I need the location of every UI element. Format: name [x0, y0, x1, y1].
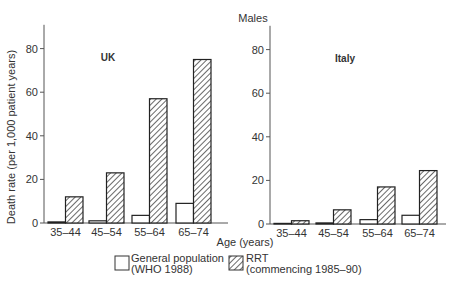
chart-canvas: 020406080UK35–4445–5455–6465–74020406080…	[0, 0, 460, 292]
bar-rrt	[334, 210, 352, 224]
panel-italy: 020406080Italy35–4445–5455–6465–74	[252, 26, 446, 239]
bar-rrt	[420, 171, 438, 224]
y-tick-label: 0	[32, 217, 38, 229]
y-tick-label: 60	[26, 86, 38, 98]
bar-general-population	[132, 215, 150, 223]
y-tick-label: 20	[26, 173, 38, 185]
y-tick-label: 40	[252, 131, 264, 143]
bar-general-population	[89, 221, 107, 223]
y-tick-label: 60	[252, 87, 264, 99]
x-tick-label: 45–54	[91, 226, 122, 238]
x-tick-label: 65–74	[404, 227, 435, 239]
bar-rrt	[378, 187, 396, 224]
y-tick-label: 80	[26, 43, 38, 55]
x-axis-label: Age (years)	[217, 236, 274, 248]
bar-general-population	[274, 223, 292, 224]
panel-title: UK	[101, 52, 116, 63]
x-tick-label: 45–54	[318, 227, 349, 239]
x-tick-label: 55–64	[134, 226, 165, 238]
panel-uk: 020406080UK35–4445–5455–6465–74	[26, 25, 228, 238]
legend: General population (WHO 1988) RRT (comme…	[115, 252, 362, 275]
bar-rrt	[107, 173, 125, 223]
y-tick-label: 40	[26, 130, 38, 142]
legend-swatch-general	[115, 256, 129, 270]
y-tick-label: 0	[258, 218, 264, 230]
bar-rrt	[150, 99, 168, 223]
bar-general-population	[176, 203, 194, 223]
bar-general-population	[48, 222, 66, 223]
legend-general-sublabel: (WHO 1988)	[131, 263, 193, 275]
x-tick-label: 35–44	[276, 227, 307, 239]
x-tick-label: 35–44	[50, 226, 81, 238]
bar-rrt	[194, 60, 212, 224]
panel-title: Italy	[335, 53, 355, 64]
y-tick-label: 80	[252, 44, 264, 56]
legend-rrt-sublabel: (commencing 1985–90)	[246, 263, 362, 275]
x-tick-label: 65–74	[178, 226, 209, 238]
legend-swatch-rrt	[229, 256, 243, 270]
chart-title: Males	[238, 12, 268, 24]
x-tick-label: 55–64	[362, 227, 393, 239]
bar-general-population	[316, 223, 334, 224]
bar-general-population	[360, 220, 378, 224]
bar-rrt	[292, 221, 310, 224]
bar-rrt	[66, 197, 84, 223]
bar-general-population	[402, 215, 420, 224]
y-tick-label: 20	[252, 174, 264, 186]
y-axis-label: Death rate (per 1,000 patient years)	[5, 50, 17, 224]
